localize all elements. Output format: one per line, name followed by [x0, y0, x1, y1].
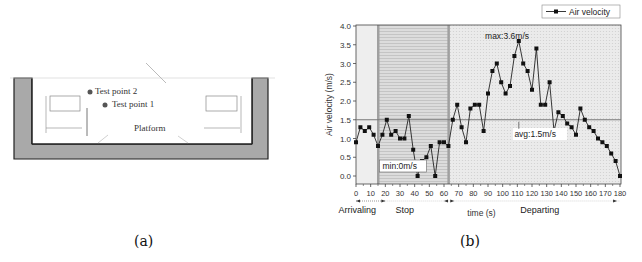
data-point	[504, 92, 508, 96]
data-point	[521, 62, 525, 66]
data-point	[468, 107, 472, 111]
y-tick-label: 1.5	[340, 116, 352, 125]
y-tick-label: 0.5	[340, 153, 352, 162]
y-tick-label: 3.0	[340, 60, 352, 69]
x-tick-label: 100	[496, 189, 509, 198]
data-point	[363, 129, 367, 133]
x-tick-label: 10	[366, 189, 374, 198]
data-point	[389, 133, 393, 137]
y-axis-label: Air velocity (m/s)	[324, 73, 334, 136]
data-point	[565, 122, 569, 126]
data-point	[512, 54, 516, 58]
data-point	[438, 140, 442, 144]
x-tick-label: 80	[469, 189, 477, 198]
data-point	[482, 129, 486, 133]
air-velocity-chart: 0.00.51.01.52.02.53.03.54.00102030405060…	[320, 0, 642, 230]
data-point	[490, 69, 494, 73]
data-point	[530, 88, 534, 92]
data-point	[600, 140, 604, 144]
data-point	[354, 140, 358, 144]
data-point	[583, 118, 587, 122]
x-tick-label: 160	[584, 189, 597, 198]
data-point	[473, 103, 477, 107]
x-tick-label: 70	[454, 189, 462, 198]
panel-a-schematic: Test point 2 Test point 1 Platform (a)	[0, 0, 320, 262]
avg-annotation: avg:1.5m/s	[514, 129, 556, 139]
data-point	[587, 125, 591, 129]
data-point	[592, 129, 596, 133]
x-tick-label: 150	[570, 189, 583, 198]
test-point-1-marker	[103, 103, 108, 108]
caption-a: (a)	[134, 233, 153, 249]
data-point	[424, 155, 428, 159]
data-point	[477, 103, 481, 107]
x-tick-label: 60	[440, 189, 448, 198]
data-point	[411, 148, 415, 152]
x-tick-label: 180	[614, 189, 627, 198]
data-point	[358, 125, 362, 129]
legend-air-velocity: Air velocity	[569, 7, 611, 17]
x-tick-label: 30	[396, 189, 404, 198]
data-point	[570, 125, 574, 129]
x-tick-label: 20	[381, 189, 389, 198]
min-annotation: min:0m/s	[382, 161, 416, 171]
data-point	[495, 62, 499, 66]
data-point	[578, 107, 582, 111]
data-point	[380, 133, 384, 137]
test-point-2-label: Test point 2	[95, 86, 137, 96]
data-point	[499, 80, 503, 84]
x-tick-label: 0	[354, 189, 358, 198]
data-point	[385, 118, 389, 122]
x-tick-label: 120	[526, 189, 539, 198]
data-point	[446, 144, 450, 148]
y-tick-label: 0.0	[340, 172, 352, 181]
data-point	[605, 144, 609, 148]
phase-label-arrivaling: Arrivaling	[338, 205, 376, 215]
x-tick-label: 130	[540, 189, 553, 198]
data-point	[451, 118, 455, 122]
panel-b-chart: 0.00.51.01.52.02.53.03.54.00102030405060…	[320, 0, 642, 262]
test-point-1-label: Test point 1	[112, 99, 154, 109]
data-point	[416, 174, 420, 178]
data-point	[460, 125, 464, 129]
x-tick-label: 140	[555, 189, 568, 198]
max-annotation: max:3.6m/s	[485, 31, 529, 41]
region-arrivaling	[356, 25, 378, 184]
phase-label-departing: Departing	[520, 205, 559, 215]
data-point	[543, 103, 547, 107]
data-point	[618, 174, 622, 178]
data-point	[433, 174, 437, 178]
x-tick-label: 170	[599, 189, 612, 198]
x-tick-label: 110	[511, 189, 523, 198]
data-point	[539, 103, 543, 107]
test-point-2-marker	[88, 90, 93, 95]
data-point	[442, 140, 446, 144]
data-point	[556, 110, 560, 114]
data-point	[398, 137, 402, 141]
data-point	[574, 133, 578, 137]
data-point	[508, 84, 512, 88]
legend: Air velocity	[542, 5, 620, 18]
y-tick-label: 3.5	[340, 41, 352, 50]
data-point	[429, 144, 433, 148]
x-axis-label: time (s)	[467, 208, 496, 218]
y-tick-label: 2.5	[340, 78, 352, 87]
y-tick-label: 1.0	[340, 135, 352, 144]
data-point	[609, 152, 613, 156]
data-point	[534, 47, 538, 51]
data-point	[548, 80, 552, 84]
data-point	[486, 92, 490, 96]
data-point	[372, 133, 376, 137]
data-point	[561, 114, 565, 118]
platform-label: Platform	[134, 123, 166, 133]
data-point	[376, 144, 380, 148]
data-point	[614, 159, 618, 163]
y-tick-label: 2.0	[340, 97, 352, 106]
y-tick-label: 4.0	[340, 22, 352, 31]
data-point	[407, 114, 411, 118]
caption-b: (b)	[460, 233, 480, 249]
x-tick-label: 40	[410, 189, 418, 198]
data-point	[402, 137, 406, 141]
x-tick-label: 90	[484, 189, 492, 198]
data-point	[464, 140, 468, 144]
